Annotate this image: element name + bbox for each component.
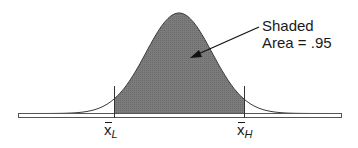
shaded-region: [114, 13, 244, 114]
upper-limit-label: xH: [237, 121, 252, 140]
shaded-area-annotation: Shaded Area = .95: [262, 17, 332, 51]
lower-limit-symbol: x: [104, 121, 112, 138]
upper-limit-symbol: x: [237, 121, 245, 138]
upper-limit-subscript: H: [245, 128, 253, 140]
annotation-line-1: Shaded: [262, 17, 332, 34]
lower-limit-subscript: L: [112, 128, 118, 140]
annotation-line-2: Area = .95: [262, 34, 332, 51]
lower-limit-label: xL: [104, 121, 118, 140]
baseline-axis: [19, 114, 342, 118]
